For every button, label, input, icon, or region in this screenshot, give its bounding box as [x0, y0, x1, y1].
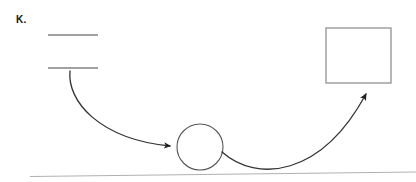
- target-rectangle: [326, 28, 391, 83]
- ground-line: [30, 172, 416, 177]
- descending-trajectory-arrow: [70, 71, 170, 146]
- diagram-canvas: [0, 0, 416, 182]
- panel-label: K.: [16, 14, 26, 26]
- circle-body: [177, 124, 223, 170]
- figure-root: K.: [0, 0, 416, 182]
- ascending-trajectory-arrow: [222, 94, 366, 169]
